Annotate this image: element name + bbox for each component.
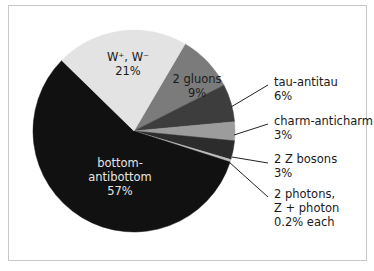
leader-line-tau [231,85,268,107]
label-bottom: bottom- antibottom 57% [70,156,170,198]
label-zz: 2 Z bosons 3% [274,152,337,180]
leader-line-photons [229,162,268,197]
label-gluons: 2 gluons 9% [168,72,226,100]
label-ww: W⁺, W⁻ 21% [98,50,158,78]
leader-line-zz [232,157,268,163]
label-tau: tau-antitau 6% [274,75,338,103]
label-charm: charm-anticharm 3% [274,114,373,142]
leader-line-charm [234,124,268,135]
label-photons: 2 photons, Z + photon 0.2% each [274,187,339,229]
